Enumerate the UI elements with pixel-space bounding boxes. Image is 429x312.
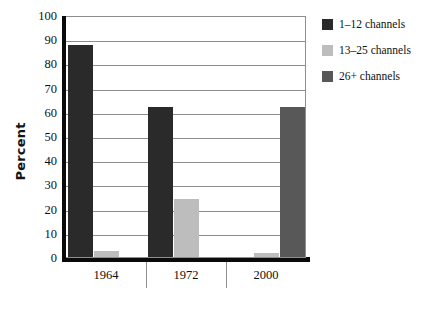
legend-label-3: 26+ channels xyxy=(339,71,400,83)
plot-area xyxy=(66,16,306,258)
y-tick-label-10: 10 xyxy=(45,228,58,241)
chart-legend: 1–12 channels13–25 channels26+ channels xyxy=(322,18,426,96)
bar-group-2000 xyxy=(226,17,306,257)
bar-chart-figure: Percent 1009080706050403020100 196419722… xyxy=(0,0,429,312)
legend-item-1[interactable]: 1–12 channels xyxy=(322,18,426,31)
y-tick-label-50: 50 xyxy=(45,131,58,144)
bar-group-1972 xyxy=(146,17,226,257)
y-axis-title: Percent xyxy=(8,96,32,206)
bar-2000-series-3 xyxy=(280,107,305,257)
y-tick-label-90: 90 xyxy=(45,34,58,47)
bar-1972-series-1 xyxy=(148,107,173,257)
y-tick-label-70: 70 xyxy=(45,82,58,95)
bar-2000-series-2 xyxy=(254,253,279,257)
y-tick-label-30: 30 xyxy=(45,179,58,192)
bar-group-1964 xyxy=(66,17,146,257)
legend-swatch-icon-1 xyxy=(322,19,333,30)
y-axis-title-text: Percent xyxy=(13,122,28,180)
x-axis-separator-1 xyxy=(146,262,147,288)
y-tick-label-40: 40 xyxy=(45,155,58,168)
y-tick-label-100: 100 xyxy=(38,10,57,23)
x-tick-label-1964: 1964 xyxy=(94,268,119,283)
bars-layer xyxy=(66,17,305,257)
legend-item-2[interactable]: 13–25 channels xyxy=(322,44,426,57)
legend-label-2: 13–25 channels xyxy=(339,45,411,57)
legend-label-1: 1–12 channels xyxy=(339,19,405,31)
legend-item-3[interactable]: 26+ channels xyxy=(322,70,426,83)
y-axis-tick-labels: 1009080706050403020100 xyxy=(30,16,61,258)
bar-1964-series-2 xyxy=(94,251,119,257)
legend-swatch-icon-2 xyxy=(322,45,333,56)
x-axis-separator-2 xyxy=(226,262,227,288)
x-tick-label-2000: 2000 xyxy=(254,268,279,283)
y-tick-label-0: 0 xyxy=(51,252,57,265)
y-tick-label-80: 80 xyxy=(45,58,58,71)
y-tick-label-20: 20 xyxy=(45,203,58,216)
x-tick-label-1972: 1972 xyxy=(174,268,199,283)
bar-1972-series-2 xyxy=(174,199,199,257)
y-tick-label-60: 60 xyxy=(45,107,58,120)
bar-1964-series-1 xyxy=(68,45,93,257)
legend-swatch-icon-3 xyxy=(322,71,333,82)
